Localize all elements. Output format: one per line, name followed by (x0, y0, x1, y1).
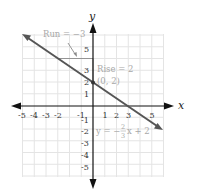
x-axis-arrow-left-icon (11, 103, 21, 110)
equation-numerator: 2 (121, 123, 125, 131)
svg-text:-2: -2 (54, 111, 62, 120)
svg-text:-2: -2 (81, 127, 89, 136)
svg-text:2: 2 (114, 111, 119, 120)
equation-prefix: y = − (95, 126, 120, 136)
equation-suffix: x + 2 (127, 126, 150, 136)
y-axis-arrow-down-icon (90, 179, 97, 189)
axes (16, 28, 170, 184)
point-label: (0, 2) (97, 76, 120, 86)
graph-canvas: y x -5 -4 -3 -2 -1 1 2 3 5 5 3 2 1 -1 -2… (0, 0, 198, 194)
run-label: Run = −3 (43, 29, 85, 39)
svg-text:3: 3 (126, 111, 131, 120)
y-axis-label: y (88, 10, 96, 23)
equation-denominator: 3 (121, 132, 125, 140)
svg-text:-5: -5 (18, 111, 26, 120)
svg-text:-3: -3 (42, 111, 50, 120)
svg-text:-3: -3 (81, 139, 89, 148)
svg-text:5: 5 (150, 111, 155, 120)
svg-text:-5: -5 (81, 163, 89, 172)
rise-label: Rise = 2 (97, 64, 133, 74)
svg-text:5: 5 (84, 45, 89, 54)
y-tick-labels: 5 3 2 1 -1 -2 -3 -4 -5 (81, 45, 89, 172)
equation-label: y = − 2 3 x + 2 (95, 123, 150, 140)
svg-text:3: 3 (84, 66, 89, 75)
y-axis-arrow-up-icon (90, 23, 97, 33)
svg-text:-4: -4 (30, 111, 38, 120)
svg-text:1: 1 (84, 90, 89, 99)
svg-text:-4: -4 (81, 151, 89, 160)
svg-text:1: 1 (103, 111, 108, 120)
x-axis-arrow-right-icon (164, 103, 174, 110)
y-intercept-point (91, 81, 95, 85)
x-axis-label: x (178, 99, 185, 112)
svg-text:-1: -1 (81, 116, 89, 125)
